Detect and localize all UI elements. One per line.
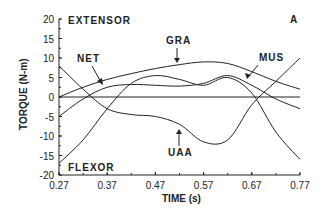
y-tick-label: -15 bbox=[40, 151, 55, 162]
uaa-arrowhead-icon bbox=[176, 129, 182, 134]
series-line-net bbox=[59, 76, 300, 117]
y-tick-label: -5 bbox=[45, 112, 54, 123]
net-arrowhead-icon bbox=[97, 78, 103, 85]
y-tick-label: 15 bbox=[43, 34, 55, 45]
flexor-label: FLEXOR bbox=[68, 162, 115, 173]
y-tick-label: 0 bbox=[48, 92, 54, 103]
series-label-gra: GRA bbox=[166, 35, 191, 46]
x-tick-label: 0.47 bbox=[146, 180, 166, 191]
mus-arrow bbox=[249, 65, 258, 76]
x-tick-label: 0.77 bbox=[290, 180, 310, 191]
y-axis-label: TORQUE (N-m) bbox=[18, 59, 29, 130]
y-tick-label: -10 bbox=[40, 131, 55, 142]
panel-label: A bbox=[290, 14, 297, 25]
gra-arrowhead-icon bbox=[174, 58, 180, 63]
y-tick-label: 20 bbox=[43, 14, 55, 25]
series-label-net: NET bbox=[77, 53, 100, 64]
y-tick-label: 5 bbox=[48, 73, 54, 84]
extensor-label: EXTENSOR bbox=[68, 15, 131, 26]
torque-chart: 20151050-5-10-15-20 0.270.370.470.570.67… bbox=[0, 0, 326, 214]
x-tick-label: 0.37 bbox=[97, 180, 117, 191]
x-tick-label: 0.57 bbox=[194, 180, 214, 191]
x-axis-label: TIME (s) bbox=[162, 193, 201, 204]
x-tick-label: 0.27 bbox=[49, 180, 69, 191]
y-tick-label: 10 bbox=[43, 53, 55, 64]
series-label-mus: MUS bbox=[259, 52, 284, 63]
series-label-uaa: UAA bbox=[168, 147, 193, 158]
x-tick-label: 0.67 bbox=[242, 180, 262, 191]
